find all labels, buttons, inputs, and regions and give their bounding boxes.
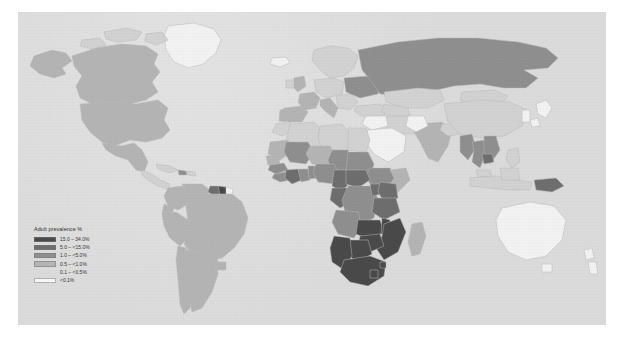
legend-row: 15.0 – 34.0% (34, 236, 130, 243)
country-uruguay (216, 262, 226, 270)
country-tanzania (372, 198, 400, 220)
country-united-states (80, 100, 170, 146)
legend: Adult prevalence % 15.0 – 34.0% 5.0 – <1… (34, 226, 130, 285)
legend-label: 1.0 – <5.0% (60, 253, 87, 258)
country-senegal (266, 155, 280, 165)
country-canada (72, 44, 160, 104)
country-swaziland (380, 262, 386, 268)
country-new-zealand (584, 248, 598, 274)
legend-swatch (34, 253, 56, 258)
legend-title: Adult prevalence % (34, 226, 130, 232)
country-ireland (286, 80, 294, 88)
legend-row: <0.1% (34, 277, 130, 284)
country-germany-poland (314, 78, 344, 98)
country-italy (320, 98, 338, 118)
country-indonesia (470, 176, 532, 190)
legend-label: 15.0 – 34.0% (60, 237, 89, 242)
country-madagascar (408, 222, 426, 256)
country-argentina (186, 250, 218, 312)
legend-swatch (34, 237, 56, 242)
country-lesotho (370, 270, 378, 278)
legend-swatch (34, 278, 56, 283)
country-australia (496, 202, 566, 260)
country-papua-new-guinea (534, 178, 564, 192)
legend-swatch (34, 245, 56, 250)
figure-root: Adult prevalence % 15.0 – 34.0% 5.0 – <1… (0, 0, 625, 352)
country-central-america (142, 170, 170, 189)
legend-row: 1.0 – <5.0% (34, 252, 130, 259)
legend-label: 0.5 – <1.0% (60, 262, 87, 267)
country-japan (530, 100, 552, 127)
country-balkans (336, 94, 358, 110)
country-haiti (178, 170, 187, 175)
legend-label: 0.1 – <0.5% (60, 270, 87, 275)
legend-label: 5.0 – <15.0% (60, 245, 90, 250)
legend-row: 0.1 – <0.5% (34, 269, 130, 276)
country-norway-sweden-finland (312, 46, 358, 78)
legend-label: <0.1% (60, 278, 74, 283)
country-russia (358, 38, 558, 96)
country-south-africa (340, 256, 386, 286)
country-cuba-caribbean (156, 164, 178, 173)
country-iceland (270, 57, 290, 67)
country-mexico (102, 143, 148, 172)
legend-swatch (34, 270, 56, 275)
country-kazakhstan (384, 88, 444, 108)
legend-row: 0.5 – <1.0% (34, 260, 130, 267)
legend-row: 5.0 – <15.0% (34, 244, 130, 251)
country-philippines (506, 148, 520, 168)
country-borneo (500, 168, 520, 180)
country-greenland (164, 23, 221, 68)
country-korea (522, 110, 530, 122)
country-alaska (30, 50, 72, 78)
legend-swatch (34, 261, 56, 266)
country-portugal (279, 109, 286, 122)
country-malaysia (476, 170, 492, 177)
country-central-african-republic (346, 170, 370, 188)
country-tasmania (542, 264, 552, 272)
country-cambodia (482, 154, 494, 164)
country-dominican-republic (187, 171, 196, 176)
country-egypt (348, 128, 370, 152)
